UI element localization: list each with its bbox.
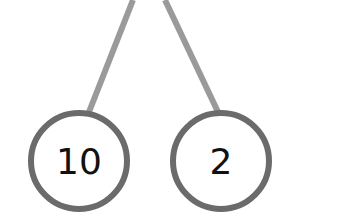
part-circle-left: 10 [31,113,127,209]
number-bond-diagram: 10 2 [0,0,345,221]
part-value-left: 10 [56,141,102,182]
right-branch-line [165,0,218,112]
part-value-right: 2 [210,141,233,182]
left-branch-line [89,0,133,112]
part-circle-right: 2 [173,113,269,209]
